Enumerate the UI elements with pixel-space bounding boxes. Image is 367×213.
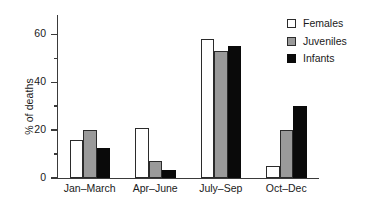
bar-infants-2 (228, 46, 242, 178)
x-axis-group-label: Jan–March (57, 183, 123, 194)
legend-label-infants: Infants (303, 53, 335, 64)
bar-juveniles-1 (149, 161, 163, 178)
bar-infants-3 (293, 106, 307, 178)
y-tick-minor (54, 153, 58, 154)
legend-item-infants: Infants (287, 51, 367, 66)
bar-chart: % of deaths 0204060 Jan–MarchApr–JuneJul… (0, 0, 367, 213)
y-tick-label: 20 (24, 124, 46, 135)
y-tick-major (51, 82, 58, 83)
y-tick-label: 40 (24, 76, 46, 87)
bar-females-0 (70, 140, 84, 178)
y-tick-label-wrap: 0 (24, 172, 46, 184)
legend-swatch-juveniles-icon (287, 37, 296, 46)
y-tick-label-wrap: 60 (24, 28, 46, 40)
bar-females-2 (201, 39, 215, 178)
y-tick-minor (54, 105, 58, 106)
legend-swatch-females-icon (287, 19, 296, 28)
bar-females-1 (135, 128, 149, 178)
bar-juveniles-0 (83, 130, 97, 178)
legend: Females Juveniles Infants (287, 16, 367, 69)
legend-item-females: Females (287, 16, 367, 31)
bar-infants-0 (97, 148, 111, 178)
bar-females-3 (266, 166, 280, 178)
legend-label-females: Females (303, 18, 343, 29)
bar-juveniles-2 (214, 51, 228, 178)
legend-item-juveniles: Juveniles (287, 34, 367, 49)
x-axis-group-label: Apr–June (123, 183, 189, 194)
x-axis-group-label: Oct–Dec (254, 183, 320, 194)
legend-swatch-infants-icon (287, 54, 296, 63)
y-tick-label-wrap: 40 (24, 76, 46, 88)
y-tick-label: 60 (24, 28, 46, 39)
y-tick-label: 0 (24, 172, 46, 183)
y-tick-major (51, 34, 58, 35)
y-tick-label-wrap: 20 (24, 124, 46, 136)
y-tick-major (51, 177, 58, 178)
y-tick-minor (54, 58, 58, 59)
y-tick-major (51, 129, 58, 130)
legend-label-juveniles: Juveniles (303, 36, 347, 47)
bar-juveniles-3 (280, 130, 294, 178)
bar-infants-1 (162, 170, 176, 178)
x-axis-group-label: July–Sep (188, 183, 254, 194)
